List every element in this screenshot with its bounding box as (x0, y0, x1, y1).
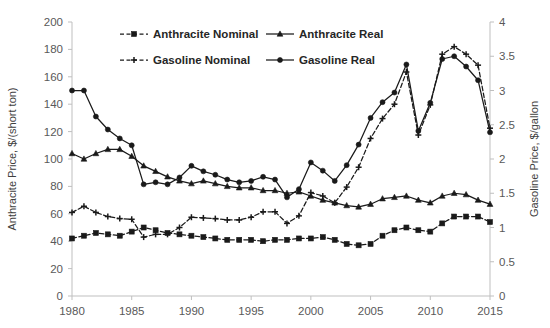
y-axis-left-tick-label: 0 (57, 290, 63, 302)
axis-titles: Anthracite Price, $/(short ton)Gasoline … (6, 87, 540, 230)
y-axis-left-tick-label: 80 (50, 180, 63, 192)
y-axis-right-tick-label: 1.5 (499, 187, 515, 199)
series-gasoline-nominal (69, 44, 493, 240)
series-anthracite-real (69, 146, 493, 209)
legend-label: Anthracite Real (299, 28, 383, 40)
y-axis-left-tick-label: 140 (44, 98, 63, 110)
x-axis-tick-label: 1980 (59, 305, 85, 317)
y-axis-left-tick-label: 120 (44, 126, 63, 138)
series-gasoline-real (70, 54, 493, 200)
x-axis-tick-label: 2000 (298, 305, 324, 317)
y-axis-right-tick-label: 0.5 (499, 256, 515, 268)
x-axis-tick-label: 2005 (358, 305, 384, 317)
y-axis-left-tick-label: 60 (50, 208, 63, 220)
y-axis-right-tick-label: 4 (499, 16, 506, 28)
x-axis-tick-label: 1985 (119, 305, 145, 317)
x-axis-tick-label: 1990 (179, 305, 205, 317)
legend-item-anthracite-nominal[interactable]: Anthracite Nominal (120, 28, 258, 40)
chart-plot-svg: 020406080100120140160180200 00.511.522.5… (0, 0, 550, 328)
y-axis-right-tick-label: 0 (499, 290, 505, 302)
x-axis-tick-label: 1995 (238, 305, 264, 317)
y-axis-left: 020406080100120140160180200 (44, 16, 72, 302)
y-axis-right-tick-label: 3 (499, 85, 505, 97)
y-axis-right-title: Gasoline Price, $/gallon (528, 101, 540, 217)
legend-label: Gasoline Nominal (153, 54, 250, 66)
legend-item-gasoline-real[interactable]: Gasoline Real (266, 54, 375, 66)
x-axis-tick-label: 2015 (477, 305, 503, 317)
y-axis-left-tick-label: 100 (44, 153, 63, 165)
legend-item-anthracite-real[interactable]: Anthracite Real (266, 28, 383, 40)
legend-label: Anthracite Nominal (153, 28, 258, 40)
chart-container: 020406080100120140160180200 00.511.522.5… (0, 0, 550, 328)
y-axis-left-tick-label: 160 (44, 71, 63, 83)
legend-item-gasoline-nominal[interactable]: Gasoline Nominal (120, 54, 250, 66)
y-axis-left-tick-label: 40 (50, 235, 63, 247)
y-axis-left-tick-label: 20 (50, 263, 63, 275)
chart-legend: Anthracite NominalAnthracite RealGasolin… (120, 28, 383, 66)
y-axis-right-tick-label: 3.5 (499, 50, 515, 62)
series-group (69, 44, 493, 248)
legend-label: Gasoline Real (299, 54, 375, 66)
y-axis-left-tick-label: 180 (44, 43, 63, 55)
y-axis-right-tick-label: 1 (499, 222, 505, 234)
x-axis-tick-label: 2010 (417, 305, 443, 317)
y-axis-right: 00.511.522.533.54 (490, 16, 515, 302)
y-axis-right-tick-label: 2 (499, 153, 505, 165)
y-axis-right-tick-label: 2.5 (499, 119, 515, 131)
y-axis-left-title: Anthracite Price, $/(short ton) (6, 87, 18, 230)
x-axis: 19801985199019952000200520102015 (59, 296, 503, 317)
y-axis-left-tick-label: 200 (44, 16, 63, 28)
